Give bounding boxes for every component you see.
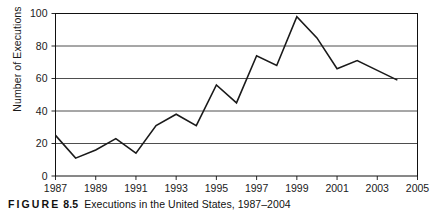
y-axis-tick-labels: 020406080100: [30, 7, 48, 182]
x-tick-label: 2005: [406, 182, 430, 194]
y-tick-label: 80: [36, 40, 48, 52]
figure-container: Number of Executions 020406080100 198719…: [0, 0, 442, 219]
x-tick-label: 1997: [245, 182, 269, 194]
x-axis-tick-labels: 1987198919911993199519971999200120032005: [44, 182, 430, 194]
line-chart-plot: 020406080100 198719891991199319951997199…: [0, 0, 442, 195]
x-tick-label: 1999: [285, 182, 309, 194]
y-tick-label: 40: [36, 105, 48, 117]
y-gridlines: [52, 14, 418, 177]
x-tick-label: 1987: [44, 182, 68, 194]
chart-area: Number of Executions 020406080100 198719…: [0, 0, 442, 195]
x-tick-label: 2001: [325, 182, 349, 194]
x-tick-label: 1993: [164, 182, 188, 194]
executions-data-line: [56, 17, 398, 158]
caption-figure-number: 8.5: [63, 198, 78, 210]
x-tick-label: 1989: [84, 182, 108, 194]
y-tick-label: 100: [30, 7, 48, 19]
caption-figure-word: FIGURE: [8, 198, 60, 210]
caption-text: Executions in the United States, 1987–20…: [84, 198, 290, 210]
plot-frame: [56, 14, 418, 177]
y-tick-label: 20: [36, 137, 48, 149]
x-tick-label: 1995: [205, 182, 229, 194]
x-tick-label: 1991: [124, 182, 148, 194]
x-axis-tick-marks: [56, 176, 418, 180]
figure-caption: FIGURE 8.5 Executions in the United Stat…: [8, 198, 438, 210]
y-tick-label: 60: [36, 72, 48, 84]
y-tick-label: 0: [42, 170, 48, 182]
x-tick-label: 2003: [366, 182, 390, 194]
